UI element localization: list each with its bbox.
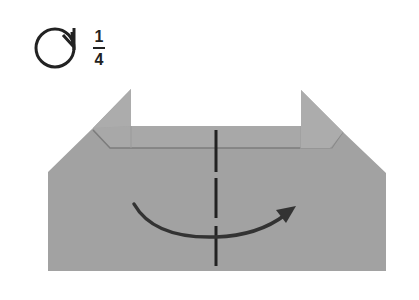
rotate-icon — [36, 28, 74, 67]
fraction-numerator: 1 — [91, 29, 107, 45]
fraction-bar — [93, 47, 105, 49]
origami-diagram — [0, 0, 419, 300]
rotation-fraction: 1 4 — [91, 29, 107, 68]
fraction-denominator: 4 — [91, 52, 107, 68]
